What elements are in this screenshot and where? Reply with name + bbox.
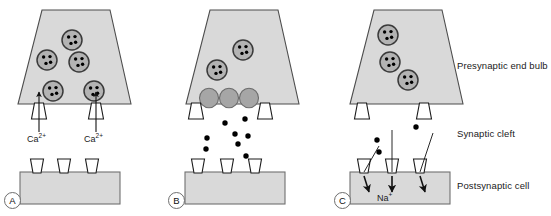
vesicle-neurotransmitter-dot [91, 93, 94, 96]
synaptic-vesicle [62, 30, 82, 50]
neurotransmitter-molecule [242, 116, 247, 121]
postsynaptic-receptor [221, 159, 234, 173]
vesicle-neurotransmitter-dot [73, 35, 76, 38]
vesicle-neurotransmitter-dot [391, 57, 394, 60]
fused-vesicle [240, 88, 259, 107]
voltage-gated-calcium-channel [355, 103, 370, 119]
synaptic-vesicle [43, 81, 63, 101]
synaptic-vesicle [378, 25, 398, 45]
ion-symbol: Ca [27, 134, 39, 144]
vesicle-membrane [380, 52, 400, 72]
panel-c [350, 10, 463, 204]
synaptic-vesicle [233, 40, 253, 60]
vesicle-neurotransmitter-dot [390, 36, 393, 39]
ion-charge: 2+ [39, 132, 46, 139]
postsynaptic-cell-body [20, 172, 120, 204]
synaptic-vesicle [207, 60, 227, 80]
vesicle-neurotransmitter-dot [385, 57, 388, 60]
vesicle-neurotransmitter-dot [410, 81, 413, 84]
vesicle-neurotransmitter-dot [76, 64, 79, 67]
vesicle-neurotransmitter-dot [389, 30, 392, 33]
ion-charge: + [389, 191, 393, 198]
vesicle-neurotransmitter-dot [50, 93, 53, 96]
sodium-label: Na+ [377, 193, 392, 203]
label-postsynaptic-cell: Postsynaptic cell [457, 180, 529, 191]
vesicle-neurotransmitter-dot [74, 57, 77, 60]
label-presynaptic-end-bulb: Presynaptic end bulb [457, 60, 548, 71]
neurotransmitter-binding-line [420, 133, 433, 172]
vesicle-membrane [84, 81, 104, 101]
neurotransmitter-molecule [232, 131, 237, 136]
synaptic-vesicle [398, 70, 418, 90]
voltage-gated-calcium-channel [417, 103, 432, 119]
neurotransmitter-molecule [413, 124, 418, 129]
label-synaptic-cleft: Synaptic cleft [457, 128, 515, 139]
synaptic-vesicle [37, 50, 57, 70]
vesicle-neurotransmitter-dot [212, 65, 215, 68]
vesicle-neurotransmitter-dot [219, 71, 222, 74]
vesicle-neurotransmitter-dot [214, 72, 217, 75]
neurotransmitter-molecule [374, 137, 379, 142]
panel-letter-b: B [168, 192, 185, 209]
vesicle-neurotransmitter-dot [55, 92, 58, 95]
postsynaptic-receptor [192, 159, 205, 173]
vesicle-neurotransmitter-dot [409, 75, 412, 78]
neurotransmitter-molecule [245, 133, 250, 138]
vesicle-neurotransmitter-dot [89, 86, 92, 89]
vesicle-neurotransmitter-dot [244, 45, 247, 48]
vesicle-neurotransmitter-dot [245, 51, 248, 54]
neurotransmitter-molecule [222, 120, 227, 125]
panel-b [185, 10, 299, 204]
synaptic-vesicle [380, 52, 400, 72]
postsynaptic-receptor [58, 159, 71, 173]
postsynaptic-receptor [86, 159, 99, 173]
vesicle-neurotransmitter-dot [238, 45, 241, 48]
vesicle-neurotransmitter-dot [240, 52, 243, 55]
vesicle-neurotransmitter-dot [385, 37, 388, 40]
vesicle-membrane [37, 50, 57, 70]
panel-letter-a: A [4, 192, 21, 209]
synaptic-transmission-figure: Ca2+Ca2+ABNa+CPresynaptic end bulbSynapt… [0, 0, 551, 216]
synaptic-vesicle [69, 52, 89, 72]
ion-symbol: Na [377, 193, 389, 203]
vesicle-membrane [378, 25, 398, 45]
calcium-label-left: Ca2+ [27, 134, 46, 144]
neurotransmitter-molecule [203, 146, 208, 151]
panel-a [18, 10, 131, 204]
ion-charge: 2+ [96, 132, 103, 139]
calcium-label-right: Ca2+ [84, 134, 103, 144]
vesicle-neurotransmitter-dot [44, 62, 47, 65]
vesicle-neurotransmitter-dot [403, 75, 406, 78]
vesicle-neurotransmitter-dot [392, 62, 395, 65]
vesicle-membrane [43, 81, 63, 101]
vesicle-neurotransmitter-dot [42, 55, 45, 58]
postsynaptic-receptor [31, 159, 44, 173]
vesicle-neurotransmitter-dot [387, 64, 390, 67]
vesicle-membrane [398, 70, 418, 90]
vesicle-neurotransmitter-dot [74, 41, 77, 44]
vesicle-neurotransmitter-dot [81, 62, 84, 65]
vesicle-neurotransmitter-dot [49, 61, 52, 64]
vesicle-neurotransmitter-dot [48, 55, 51, 58]
vesicle-neurotransmitter-dot [48, 86, 51, 89]
synaptic-vesicle [84, 81, 104, 101]
vesicle-neurotransmitter-dot [67, 35, 70, 38]
vesicle-neurotransmitter-dot [95, 86, 98, 89]
vesicle-neurotransmitter-dot [218, 65, 221, 68]
panel-letter-c: C [334, 192, 351, 209]
voltage-gated-calcium-channel [189, 103, 204, 119]
vesicle-neurotransmitter-dot [383, 30, 386, 33]
voltage-gated-calcium-channel [258, 103, 273, 119]
vesicle-membrane [62, 30, 82, 50]
fused-vesicle [200, 88, 219, 107]
neurotransmitter-molecule [204, 135, 209, 140]
vesicle-neurotransmitter-dot [80, 57, 83, 60]
ion-symbol: Ca [84, 134, 96, 144]
vesicle-neurotransmitter-dot [54, 86, 57, 89]
vesicle-membrane [207, 60, 227, 80]
vesicle-neurotransmitter-dot [405, 82, 408, 85]
vesicle-membrane [69, 52, 89, 72]
neurotransmitter-molecule [235, 141, 240, 146]
postsynaptic-receptor [249, 159, 262, 173]
fused-vesicle [220, 88, 239, 107]
